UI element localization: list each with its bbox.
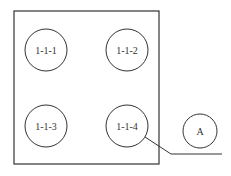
node-1-1-4: 1-1-4 bbox=[106, 105, 148, 147]
node-1-1-2: 1-1-2 bbox=[106, 29, 148, 71]
node-label: 1-1-4 bbox=[116, 121, 138, 132]
callout-a: A bbox=[183, 114, 217, 148]
node-label: 1-1-1 bbox=[35, 45, 57, 56]
node-1-1-3: 1-1-3 bbox=[25, 105, 67, 147]
node-label: 1-1-3 bbox=[35, 121, 57, 132]
node-label: 1-1-2 bbox=[116, 45, 138, 56]
diagram-canvas: 1-1-1 1-1-2 1-1-3 1-1-4 A bbox=[0, 0, 231, 176]
callout-label: A bbox=[196, 126, 204, 137]
node-1-1-1: 1-1-1 bbox=[25, 29, 67, 71]
